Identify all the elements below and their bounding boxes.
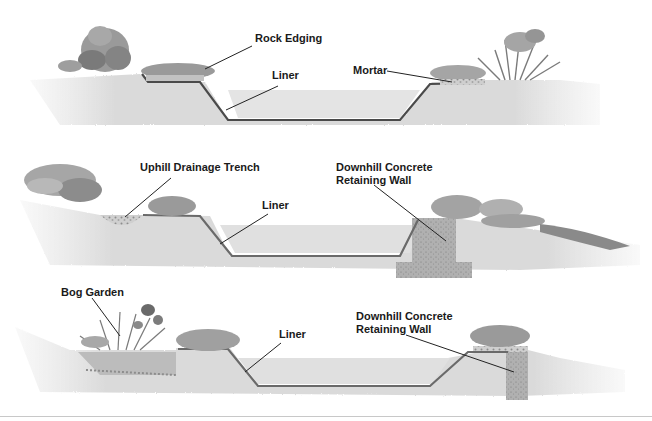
bog-plants bbox=[80, 304, 165, 350]
label-line-2: Retaining Wall bbox=[336, 174, 433, 187]
label-bog-garden: Bog Garden bbox=[61, 286, 124, 299]
rock-edging-stone-right bbox=[430, 65, 486, 81]
mortar-bed-right bbox=[440, 79, 485, 85]
panel-sloped-bog bbox=[15, 298, 625, 400]
label-line-2: Retaining Wall bbox=[356, 323, 453, 336]
panel-sloped-trench bbox=[20, 164, 640, 278]
pond-water bbox=[238, 358, 450, 384]
label-liner-1: Liner bbox=[272, 69, 299, 82]
leader-bog-garden bbox=[92, 298, 120, 336]
retaining-wall bbox=[506, 350, 528, 400]
plant-right bbox=[478, 29, 560, 80]
plant-left bbox=[58, 26, 131, 72]
label-liner-3: Liner bbox=[279, 328, 306, 341]
label-liner-2: Liner bbox=[262, 199, 289, 212]
label-downhill-concrete-retaining-wall-1: Downhill Concrete Retaining Wall bbox=[336, 161, 433, 187]
edging-rock-left bbox=[148, 196, 196, 216]
label-mortar: Mortar bbox=[353, 64, 387, 77]
retaining-wall-footing bbox=[396, 262, 472, 278]
bottom-divider bbox=[0, 416, 652, 417]
shrub-uphill bbox=[24, 164, 102, 202]
pond-water bbox=[228, 90, 420, 118]
label-line-1: Downhill Concrete bbox=[336, 161, 433, 174]
label-downhill-concrete-retaining-wall-2: Downhill Concrete Retaining Wall bbox=[356, 310, 453, 336]
pond-water bbox=[220, 225, 420, 253]
edging-rock-right-1 bbox=[431, 195, 483, 219]
label-rock-edging: Rock Edging bbox=[255, 32, 322, 45]
label-line-1: Downhill Concrete bbox=[356, 310, 453, 323]
mortar-bed-left bbox=[146, 75, 204, 81]
edging-rock-left bbox=[176, 329, 240, 351]
edging-rock-right-3 bbox=[481, 214, 545, 228]
label-uphill-drainage-trench: Uphill Drainage Trench bbox=[140, 161, 260, 174]
leader-rock-edging bbox=[205, 46, 252, 69]
edging-rock-right bbox=[470, 325, 530, 347]
diagram-illustration bbox=[0, 0, 652, 421]
pond-construction-diagram: Rock Edging Liner Mortar Uphill Drainage… bbox=[0, 0, 652, 421]
